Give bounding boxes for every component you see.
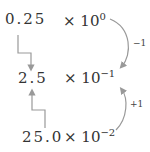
curved-arrow-down-icon [110, 19, 128, 66]
coefficient-row-1: 0.25 [5, 12, 46, 27]
times-ten-row-2: × 10 [64, 69, 100, 87]
times-ten-row-3: × 10 [64, 128, 100, 146]
power-row-2: × 10−1 [64, 71, 115, 86]
exponent-row-1: 0 [99, 11, 105, 22]
exponent-row-2: −1 [100, 68, 115, 79]
step-label-plus-one: +1 [130, 100, 143, 109]
times-ten-row-1: × 10 [63, 12, 99, 30]
power-row-3: × 10−2 [64, 130, 115, 145]
coefficient-row-2: 2.5 [18, 71, 48, 86]
coefficient-row-3: 25.0 [22, 130, 63, 145]
power-row-1: × 100 [63, 14, 106, 29]
exponent-row-3: −2 [100, 127, 115, 138]
scientific-notation-diagram: 0.25 × 100 2.5 × 10−1 25.0 × 10−2 −1 +1 [0, 0, 150, 152]
elbow-arrow-up-icon [32, 92, 45, 128]
curved-arrow-up-icon [116, 90, 126, 130]
elbow-arrow-down-icon [18, 35, 31, 68]
step-label-minus-one: −1 [133, 39, 146, 48]
